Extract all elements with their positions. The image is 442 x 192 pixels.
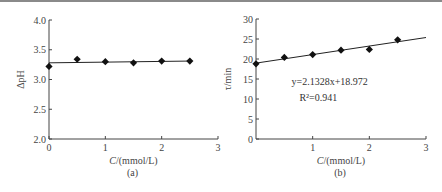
x-tick-label-a: 2: [159, 142, 164, 153]
data-point-a: [186, 57, 193, 64]
y-tick-label-a: 2.0: [34, 134, 47, 145]
y-tick-label-b: 20: [243, 54, 253, 65]
x-tick-label-a: 3: [216, 142, 221, 153]
y-tick-label-b: 10: [243, 94, 253, 105]
x-tick-label-a: 1: [103, 142, 108, 153]
data-point-b: [337, 47, 344, 54]
data-point-b: [309, 51, 316, 58]
y-tick-label-b: 5: [248, 114, 253, 125]
data-point-a: [158, 57, 165, 64]
x-tick-label-b: 3: [424, 142, 429, 153]
figure: 2.02.53.03.54.00123C/(mmol/L)(a)ΔpH05101…: [0, 0, 442, 192]
r-squared-b: R²=0.941: [299, 92, 337, 103]
panel-label-b: (b): [334, 167, 346, 179]
data-point-a: [130, 59, 137, 66]
x-tick-label-b: 1: [310, 142, 315, 153]
y-axis-title-a: ΔpH: [15, 70, 26, 89]
data-point-a: [45, 63, 52, 70]
data-point-a: [102, 58, 109, 65]
y-tick-label-b: 30: [243, 14, 253, 25]
x-axis-title-a: C/(mmol/L): [109, 155, 157, 167]
x-tick-label-a: 0: [47, 142, 52, 153]
x-axis-title-b: C/(mmol/L): [317, 155, 365, 167]
y-tick-label-b: 25: [243, 34, 253, 45]
y-tick-label-a: 3.0: [34, 74, 47, 85]
data-point-a: [74, 56, 81, 63]
y-tick-label-b: 0: [248, 134, 253, 145]
fit-line-a: [49, 61, 190, 63]
regression-equation-b: y=2.1328x+18.972: [292, 76, 368, 87]
panel-label-a: (a): [127, 167, 138, 179]
y-tick-label-a: 2.5: [34, 104, 47, 115]
data-point-b: [281, 54, 288, 61]
y-tick-label-b: 15: [243, 74, 253, 85]
y-tick-label-a: 4.0: [34, 15, 47, 26]
y-tick-label-a: 3.5: [34, 44, 47, 55]
x-tick-label-b: 2: [367, 142, 372, 153]
y-axis-title-b: τ/min: [222, 68, 233, 90]
data-point-b: [252, 60, 259, 67]
